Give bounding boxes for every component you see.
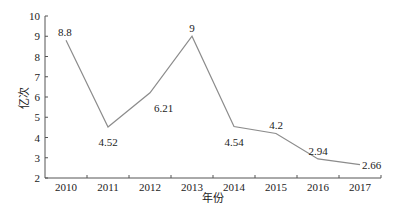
data-label: 8.8 [58,26,72,38]
y-tick-label: 3 [35,152,41,164]
data-label: 4.52 [98,136,117,148]
x-tick-label: 2014 [223,181,246,193]
x-tick-label: 2017 [349,181,372,193]
y-tick-label: 4 [35,132,41,144]
y-tick-label: 2 [35,172,41,184]
data-label: 9 [189,22,195,34]
x-axis-label: 年份 [202,191,224,204]
data-label: 2.66 [362,159,382,171]
x-tick-label: 2013 [181,181,204,193]
x-tick-label: 2016 [307,181,330,193]
y-tick-label: 6 [35,91,41,103]
y-tick-label: 5 [35,111,41,123]
data-label: 6.21 [154,102,173,114]
data-label: 4.54 [224,136,244,148]
y-tick-label: 8 [35,51,41,63]
x-tick-label: 2011 [97,181,119,193]
x-tick-label: 2010 [55,181,78,193]
y-tick-label: 10 [29,10,41,22]
y-tick-label: 9 [35,30,41,42]
x-tick-label: 2015 [265,181,288,193]
chart-axes: 2345678910201020112012201320142015201620… [29,10,381,193]
line-chart: 2345678910201020112012201320142015201620… [0,0,404,214]
x-tick-label: 2012 [139,181,161,193]
y-axis-label: 亿次 [17,87,30,109]
y-tick-label: 7 [35,71,41,83]
data-label: 4.2 [269,119,283,131]
data-label: 2.94 [308,145,328,157]
